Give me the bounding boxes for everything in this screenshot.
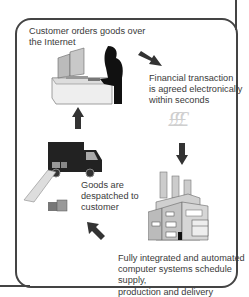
step-despatch-label: Goods are despatched to customer: [81, 180, 139, 214]
step-transaction-label: Financial transaction is agreed electron…: [149, 73, 242, 107]
arrow-down-icon: [176, 143, 188, 165]
label-line: is agreed electronically: [149, 84, 242, 95]
label-line: computer systems schedule supply,: [118, 264, 249, 286]
step-production-label: Fully integrated and automated computer …: [118, 253, 249, 297]
customer-at-computer-icon: [48, 46, 128, 106]
label-line: Financial transaction: [149, 73, 242, 84]
pound-sign-icon: £££: [168, 106, 183, 132]
label-line: Fully integrated and automated: [118, 253, 249, 264]
label-line: customer: [81, 202, 139, 213]
factory-icon: [148, 170, 232, 242]
label-line: despatched to: [81, 191, 139, 202]
label-line: Goods are: [81, 180, 139, 191]
arrow-up-icon: [72, 107, 84, 129]
label-line: within seconds: [149, 95, 242, 106]
label-line: production and delivery: [118, 287, 249, 297]
label-line: Customer orders goods over: [29, 26, 145, 37]
arrow-down-right-icon: [138, 51, 164, 69]
arrow-up-left-icon: [87, 222, 105, 242]
